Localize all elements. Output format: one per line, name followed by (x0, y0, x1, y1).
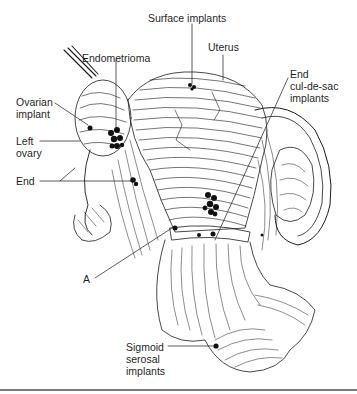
right-side-lesion (261, 234, 264, 237)
label-uterus: Uterus (208, 41, 239, 53)
label-end: End (16, 175, 35, 187)
label-sigmoid-1: Sigmoid (126, 341, 164, 353)
label-surface-implants: Surface implants (148, 12, 226, 24)
label-sigmoid-3: implants (126, 365, 165, 377)
bottom-divider (0, 389, 357, 391)
label-a: A (83, 273, 90, 285)
sigmoid-lesion (213, 343, 218, 348)
endometrioma-lesion (108, 127, 124, 149)
leader-lines (40, 24, 288, 346)
label-sigmoid-2: serosal (126, 353, 160, 365)
ovarian-implant-lesion (88, 126, 93, 131)
label-end-cul-de-sac-1: End (290, 68, 309, 80)
right-ovary (271, 147, 314, 221)
label-left-ovary-1: Left (16, 135, 34, 147)
label-endometrioma: Endometrioma (82, 52, 150, 64)
endometriosis-illustration (0, 0, 357, 394)
sigmoid-hatching (171, 244, 308, 367)
label-ovarian-implant-1: Ovarian (16, 96, 53, 108)
label-end-cul-de-sac-2: cul-de-sac (290, 80, 338, 92)
left-tube (84, 150, 92, 235)
right-tube (255, 108, 331, 246)
label-ovarian-implant-2: implant (16, 108, 50, 120)
end-lesion (130, 177, 138, 186)
uterus-hatching (133, 78, 262, 226)
cul-de-sac-lesion (203, 192, 219, 216)
label-left-ovary-2: ovary (16, 147, 42, 159)
label-end-cul-de-sac-3: implants (290, 92, 329, 104)
